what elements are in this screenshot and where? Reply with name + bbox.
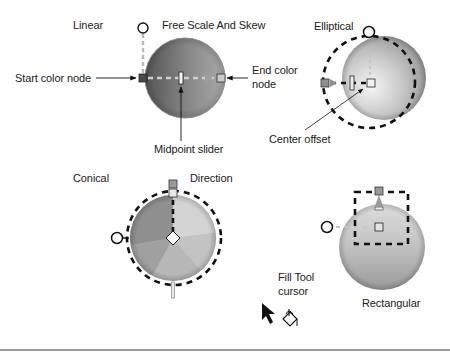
start-color-node-callout: Start color node	[15, 72, 91, 85]
linear-panel	[96, 23, 248, 141]
rectangular-rotation-handle[interactable]	[322, 222, 333, 233]
elliptical-panel	[305, 27, 426, 131]
fill-tool-cursor-label-line1: Fill Tool	[278, 271, 314, 284]
rectangular-start-color-node[interactable]	[375, 187, 383, 195]
direction-label: Direction	[190, 172, 233, 185]
fill-tool-cursor-icon	[262, 303, 297, 326]
rectangular-title: Rectangular	[362, 297, 420, 310]
end-color-node-callout-line2: node	[252, 78, 276, 91]
elliptical-rotation-handle[interactable]	[364, 27, 375, 38]
rectangular-midpoint-slider[interactable]	[375, 207, 383, 210]
rectangular-sphere-shade	[339, 204, 425, 290]
fill-tool-cursor-label-line2: cursor	[278, 285, 308, 298]
linear-start-color-node[interactable]	[139, 74, 147, 82]
end-color-node-callout-line1: End color	[252, 64, 298, 77]
free-scale-and-skew-label: Free Scale And Skew	[162, 19, 265, 32]
gradient-diagram: Linear Free Scale And Skew Start color n…	[0, 0, 450, 355]
elliptical-midpoint-slider[interactable]	[350, 76, 354, 90]
linear-end-color-node[interactable]	[217, 74, 225, 82]
conical-midpoint-slider[interactable]	[172, 282, 175, 298]
bottom-divider	[0, 349, 450, 351]
elliptical-start-color-node[interactable]	[321, 79, 329, 87]
conical-start-color-node[interactable]	[169, 180, 177, 188]
rectangular-panel	[322, 187, 426, 290]
rectangular-center-node[interactable]	[375, 223, 383, 231]
conical-title: Conical	[73, 172, 109, 185]
linear-rotation-handle[interactable]	[138, 23, 148, 33]
elliptical-title: Elliptical	[314, 20, 353, 33]
rectangular-axis-arrow-icon	[375, 195, 383, 206]
elliptical-sphere-shade	[342, 36, 426, 120]
midpoint-slider-callout: Midpoint slider	[154, 143, 223, 156]
elliptical-axis-arrow-icon	[330, 79, 337, 87]
center-offset-callout-arrow	[305, 89, 363, 130]
elliptical-center-node[interactable]	[367, 79, 375, 87]
conical-end-color-node[interactable]	[169, 189, 177, 197]
center-offset-callout: Center offset	[269, 133, 330, 146]
linear-title: Linear	[73, 19, 103, 32]
linear-midpoint-slider[interactable]	[179, 72, 183, 84]
conical-rotation-handle[interactable]	[112, 233, 123, 244]
conical-panel	[112, 180, 222, 298]
